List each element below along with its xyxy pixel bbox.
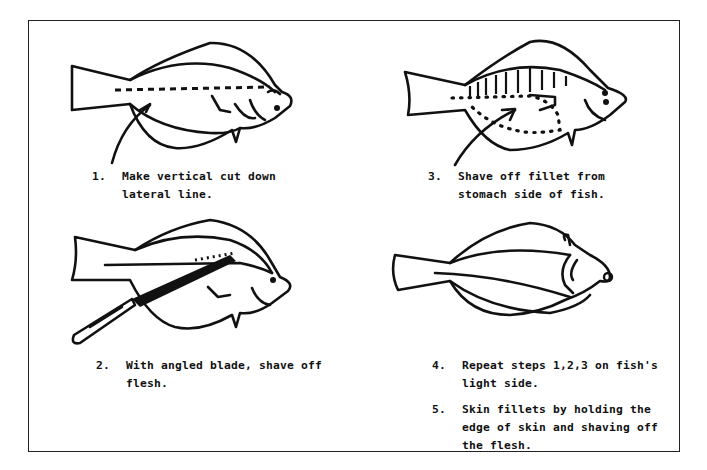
fish-figure-3 xyxy=(390,30,640,170)
step-text: Skin fillets by holding the edge of skin… xyxy=(462,401,672,455)
step-1-caption: 1. Make vertical cut down lateral line. xyxy=(92,168,322,204)
flatfish-light-side-icon xyxy=(390,215,640,355)
fish-figure-1 xyxy=(60,30,310,170)
step-text: With angled blade, shave off flesh. xyxy=(126,357,326,393)
step-number: 4. xyxy=(432,357,462,393)
step-item: 3. Shave off fillet from stomach side of… xyxy=(428,168,658,204)
step-number: 3. xyxy=(428,168,458,204)
step-item: 1. Make vertical cut down lateral line. xyxy=(92,168,322,204)
step-text: Repeat steps 1,2,3 on fish's light side. xyxy=(462,357,672,393)
step-text: Shave off fillet from stomach side of fi… xyxy=(458,168,658,204)
flatfish-dotted-stomach-fillet-icon xyxy=(390,30,640,170)
step-number: 5. xyxy=(432,401,462,455)
step-item: 4. Repeat steps 1,2,3 on fish's light si… xyxy=(432,357,672,393)
step-number: 1. xyxy=(92,168,122,204)
flatfish-with-fillet-knife-icon xyxy=(60,215,310,355)
step-item: 2. With angled blade, shave off flesh. xyxy=(96,357,326,393)
step-item: 5. Skin fillets by holding the edge of s… xyxy=(432,401,672,455)
step-text: Make vertical cut down lateral line. xyxy=(122,168,322,204)
fish-figure-2 xyxy=(60,215,310,355)
step-3-caption: 3. Shave off fillet from stomach side of… xyxy=(428,168,658,204)
step-2-caption: 2. With angled blade, shave off flesh. xyxy=(96,357,326,393)
steps-4-5-caption: 4. Repeat steps 1,2,3 on fish's light si… xyxy=(432,357,672,455)
step-number: 2. xyxy=(96,357,126,393)
flatfish-dashed-lateral-line-icon xyxy=(60,30,310,170)
fish-figure-4 xyxy=(390,215,640,355)
